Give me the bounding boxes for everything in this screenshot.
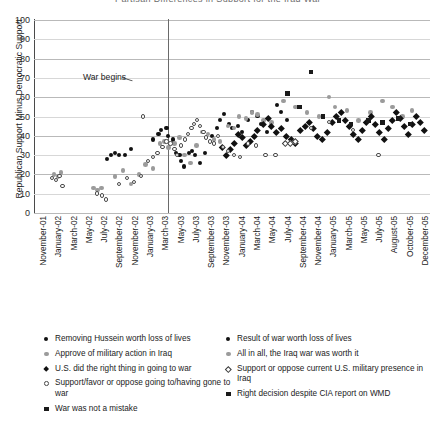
data-point [327,95,332,100]
data-point [351,128,355,132]
legend-item[interactable]: Support or oppose current U.S. military … [226,364,432,385]
data-point [160,145,164,149]
x-tick-july-03: July-03 [193,216,201,242]
data-point [141,114,145,118]
data-point [172,141,177,146]
legend-item[interactable]: War was not a mistake [44,404,234,414]
legend-item[interactable]: U.S. did the right thing in going to war [44,364,234,374]
data-point [105,157,109,161]
data-point [366,118,371,123]
data-point [376,153,380,157]
data-point [278,125,284,131]
data-point [193,153,197,157]
data-point [380,120,385,125]
x-tick-july-02: July-02 [101,216,109,242]
data-point [192,122,196,126]
data-point [177,135,182,140]
legend-marker-icon [226,337,230,341]
legend-item[interactable]: Removing Hussein worth loss of lives [44,334,234,344]
legend-marker-icon [43,366,49,372]
data-point [381,136,387,142]
chart-title: Partisan Differences in Support for the … [0,0,436,2]
x-tick-march-05: March-05 [346,216,354,251]
x-tick-november-04: November-04 [315,216,323,266]
legend-item-label: Result of war worth loss of lives [237,334,432,344]
y-tick-0: 0 [25,209,30,218]
data-point [263,153,267,157]
data-point [117,153,121,157]
data-point [156,132,160,136]
data-point [218,118,222,122]
x-tick-december-05: December-05 [422,216,430,266]
data-point [139,174,143,178]
data-point [104,197,108,201]
y-tick-100: 100 [15,16,30,25]
data-point [216,134,220,138]
legend-marker-icon [44,381,49,386]
data-point [129,147,133,151]
data-point [143,162,148,167]
y-tick-20: 20 [20,170,30,179]
legend-item-label: Support or oppose current U.S. military … [237,364,432,385]
legend-item[interactable]: Right decision despite CIA report on WMD [226,389,432,399]
data-point [319,136,325,142]
data-point [285,118,289,122]
chart-figure: Partisan Differences in Support for the … [0,0,436,424]
data-point [179,143,183,147]
legend-item[interactable]: Result of war worth loss of lives [226,334,432,344]
legend-column-right: Result of war worth loss of livesAll in … [226,334,432,404]
gridline-40 [34,136,430,137]
data-point [417,119,423,125]
x-tick-september-04: September-04 [300,216,308,268]
data-point [168,141,172,145]
x-tick-march-02: March-02 [71,216,79,251]
data-point [113,174,118,179]
data-point [125,176,129,180]
data-point [166,134,170,138]
data-point [376,129,382,135]
legend-marker-icon [226,352,231,357]
x-tick-may-04: May-04 [269,216,277,243]
x-tick-august-05: August-05 [391,216,399,253]
data-point [385,125,391,131]
x-tick-november-02: November-02 [132,216,140,266]
data-point [212,141,216,145]
gridline-80 [34,59,430,60]
data-point [255,112,260,117]
data-point [324,129,330,135]
data-point [309,70,314,75]
data-point [201,130,205,134]
data-point [215,126,219,130]
data-point [231,140,237,146]
legend-item[interactable]: Approve of military action in Iraq [44,349,234,359]
data-point [221,145,225,149]
data-point [179,159,183,163]
data-point [183,137,187,141]
data-point [265,130,269,134]
x-tick-may-03: May-03 [178,216,186,243]
data-point [182,164,186,168]
data-point [194,143,199,148]
x-tick-september-02: September-02 [116,216,124,268]
data-point [188,161,193,166]
data-point [159,128,163,132]
data-point [297,127,303,133]
legend-item[interactable]: Support/favor or oppose going to/having … [44,378,234,399]
legend-marker-icon [226,392,231,397]
x-tick-january-05: January-05 [330,216,338,257]
gridline-0 [34,213,430,214]
legend-item[interactable]: All in all, the Iraq war was worth it [226,349,432,359]
data-point [151,155,155,159]
data-point [60,184,64,188]
data-point [198,124,202,128]
data-point [151,166,156,171]
data-point [251,133,257,139]
data-point [349,122,354,127]
legend-marker-icon [44,407,49,412]
legend-item-label: Removing Hussein worth loss of lives [55,334,234,344]
data-point [54,178,58,182]
x-tick-march-04: March-04 [254,216,262,251]
data-point [260,121,266,127]
data-point [132,180,136,184]
y-tick-70: 70 [20,74,30,83]
